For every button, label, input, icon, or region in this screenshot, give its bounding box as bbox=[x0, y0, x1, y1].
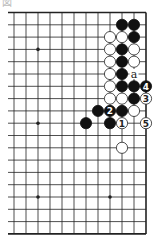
move-number: 5 bbox=[143, 119, 149, 129]
black-stone-icon bbox=[116, 19, 127, 30]
black-stone bbox=[128, 93, 139, 104]
white-stone bbox=[128, 44, 139, 55]
white-stone bbox=[104, 44, 115, 55]
black-stone bbox=[116, 105, 127, 116]
black-stone-icon bbox=[104, 118, 115, 129]
black-stone-icon bbox=[128, 81, 139, 92]
black-stone-icon bbox=[128, 19, 139, 30]
white-stone bbox=[104, 93, 115, 104]
white-stone bbox=[128, 56, 139, 67]
black-stone-icon bbox=[128, 31, 139, 42]
white-stone-icon bbox=[116, 142, 127, 153]
black-stone bbox=[116, 56, 127, 67]
white-stone bbox=[104, 81, 115, 92]
white-stone bbox=[116, 93, 127, 104]
black-stone-icon bbox=[116, 81, 127, 92]
black-stone bbox=[92, 105, 103, 116]
move-number: 4 bbox=[143, 82, 149, 92]
hoshi-dot bbox=[36, 48, 40, 52]
white-stone-icon bbox=[104, 31, 115, 42]
black-stone-icon bbox=[128, 93, 139, 104]
black-stone-4: 4 bbox=[140, 81, 151, 92]
point-labels: a bbox=[130, 68, 139, 81]
hoshi-dot bbox=[36, 195, 40, 199]
black-stone bbox=[80, 118, 91, 129]
hoshi-dot bbox=[108, 195, 112, 199]
white-stone-3: 3 bbox=[140, 93, 151, 104]
white-stone-icon bbox=[104, 68, 115, 79]
black-stone-2: 2 bbox=[104, 105, 115, 116]
white-stone-icon bbox=[128, 105, 139, 116]
black-stone bbox=[116, 19, 127, 30]
white-stone-1: 1 bbox=[116, 118, 127, 129]
black-stone bbox=[116, 68, 127, 79]
black-stone bbox=[128, 31, 139, 42]
white-stone bbox=[104, 31, 115, 42]
white-stone bbox=[116, 31, 127, 42]
black-stone bbox=[116, 44, 127, 55]
white-stone bbox=[104, 68, 115, 79]
point-label-a: a bbox=[131, 68, 138, 81]
white-stone-icon bbox=[104, 44, 115, 55]
black-stone bbox=[104, 118, 115, 129]
move-number: 2 bbox=[107, 106, 113, 116]
black-stone-icon bbox=[116, 44, 127, 55]
black-stone-icon bbox=[92, 105, 103, 116]
black-stone bbox=[128, 19, 139, 30]
white-stone-icon bbox=[116, 93, 127, 104]
hoshi-dot bbox=[36, 121, 40, 125]
black-stone bbox=[116, 81, 127, 92]
black-stone-icon bbox=[116, 68, 127, 79]
white-stone-icon bbox=[104, 81, 115, 92]
black-stone bbox=[128, 81, 139, 92]
white-stone-icon bbox=[116, 31, 127, 42]
move-number: 1 bbox=[119, 119, 125, 129]
white-stone-5: 5 bbox=[140, 118, 151, 129]
go-board: a 43215 bbox=[0, 0, 155, 246]
white-stone bbox=[128, 105, 139, 116]
white-stone bbox=[116, 142, 127, 153]
white-stone-icon bbox=[104, 93, 115, 104]
white-stone-icon bbox=[128, 56, 139, 67]
move-number: 3 bbox=[143, 94, 149, 104]
go-diagram: 図 a 43215 bbox=[0, 0, 155, 246]
black-stone-icon bbox=[116, 56, 127, 67]
white-stone bbox=[104, 56, 115, 67]
black-stone-icon bbox=[116, 105, 127, 116]
white-stone-icon bbox=[128, 44, 139, 55]
white-stone-icon bbox=[104, 56, 115, 67]
black-stone-icon bbox=[80, 118, 91, 129]
